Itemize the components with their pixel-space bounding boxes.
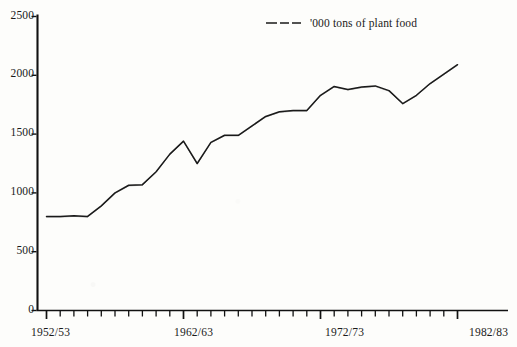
x-tick-label-1952: 1952/53	[31, 326, 70, 338]
y-tick-label-500: 500	[4, 244, 34, 256]
x-tick-label-1962: 1962/63	[174, 326, 213, 338]
y-tick-label-2000: 2000	[0, 67, 34, 79]
chart-legend: '000 tons of plant food	[266, 17, 417, 29]
y-tick-label-1500: 1500	[0, 126, 34, 138]
y-axis-ticks	[32, 17, 37, 311]
x-axis-ticks	[47, 311, 458, 320]
y-tick-label-2500: 2500	[0, 9, 34, 21]
x-tick-label-1972: 1972/73	[325, 326, 364, 338]
x-tick-label-1982: 1982/83	[469, 326, 508, 338]
axes-group	[37, 15, 509, 311]
y-tick-label-0: 0	[4, 303, 34, 315]
chart-figure: 0 500 1000 1500 2000 2500 1952/53 1962/6…	[0, 0, 517, 347]
dashed-line-icon	[266, 19, 304, 27]
legend-label: '000 tons of plant food	[310, 17, 417, 29]
data-series-line	[47, 65, 458, 217]
line-chart-plot	[0, 0, 517, 347]
y-tick-label-1000: 1000	[0, 185, 34, 197]
